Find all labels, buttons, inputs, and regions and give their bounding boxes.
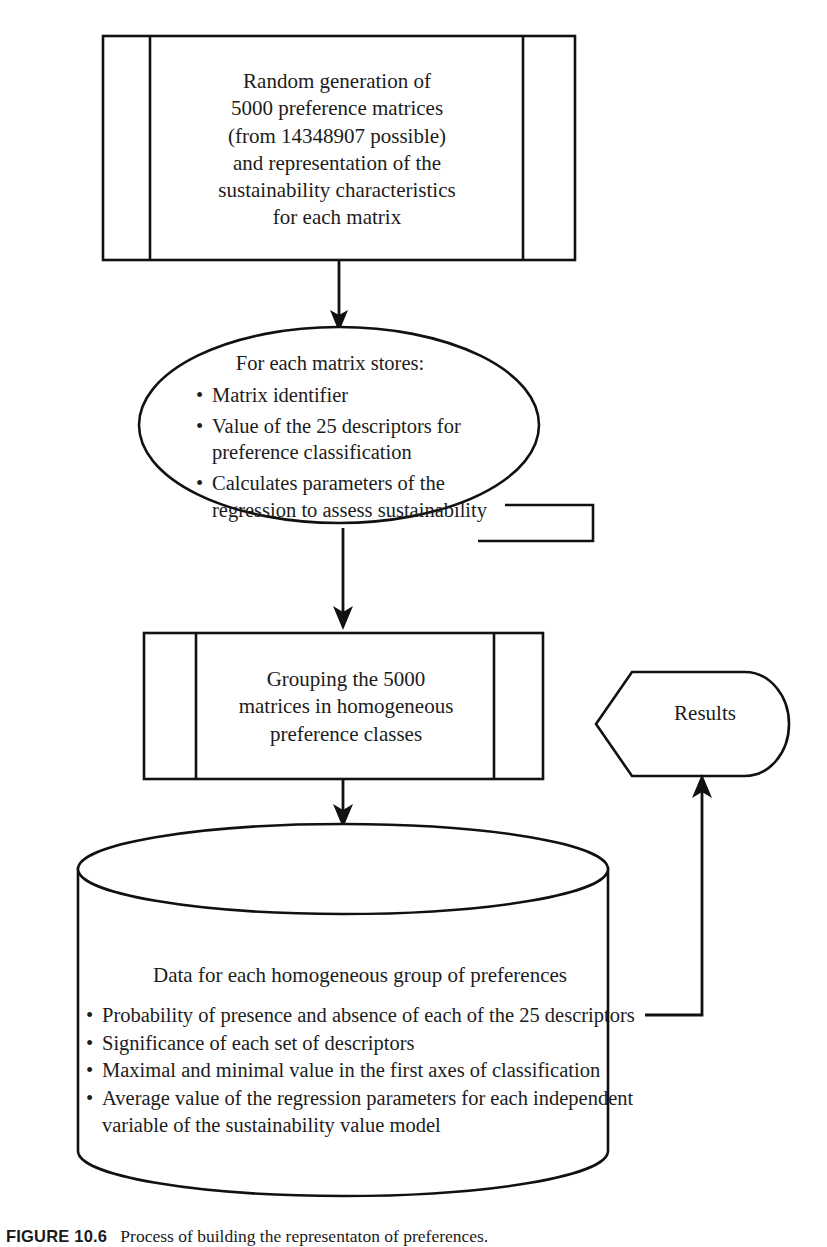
list-item: Value of the 25 descriptors for preferen… (196, 413, 526, 466)
process-generation-line-4: and representation of the (160, 150, 514, 177)
connector-storage-to-grouping (333, 528, 353, 630)
figure-caption: FIGURE 10.6 Process of building the repr… (6, 1226, 821, 1247)
process-generation-text: Random generation of 5000 preference mat… (160, 68, 514, 232)
process-grouping-line-1: Grouping the 5000 (205, 666, 487, 693)
list-item: Calculates parameters of the regression … (196, 470, 526, 523)
list-item: Average value of the regression paramete… (86, 1085, 666, 1138)
process-generation-line-1: Random generation of (160, 68, 514, 95)
list-item: Matrix identifier (196, 382, 526, 409)
connector-database-to-results (645, 774, 712, 1015)
process-generation-line-5: sustainability characteristics (160, 177, 514, 204)
process-generation-line-2: 5000 preference matrices (160, 95, 514, 122)
storage-ellipse-title: For each matrix stores: (165, 350, 495, 377)
process-grouping-line-3: preference classes (205, 721, 487, 748)
process-grouping-text: Grouping the 5000 matrices in homogeneou… (205, 666, 487, 748)
process-generation-line-3: (from 14348907 possible) (160, 123, 514, 150)
process-grouping-line-2: matrices in homogeneous (205, 693, 487, 720)
list-item: Significance of each set of descriptors (86, 1030, 666, 1057)
list-item: Maximal and minimal value in the first a… (86, 1057, 666, 1084)
list-item: Probability of presence and absence of e… (86, 1002, 666, 1029)
figure-caption-text: Process of building the representaton of… (120, 1226, 488, 1246)
storage-ellipse-bullets: Matrix identifier Value of the 25 descri… (196, 382, 526, 527)
connector-generation-to-storage (330, 260, 348, 332)
database-title: Data for each homogeneous group of prefe… (80, 962, 640, 989)
figure-caption-label: FIGURE 10.6 (6, 1227, 107, 1245)
process-generation-line-6: for each matrix (160, 204, 514, 231)
database-bullets: Probability of presence and absence of e… (86, 1002, 666, 1139)
results-label: Results (630, 700, 780, 727)
connector-grouping-to-database (333, 779, 353, 828)
